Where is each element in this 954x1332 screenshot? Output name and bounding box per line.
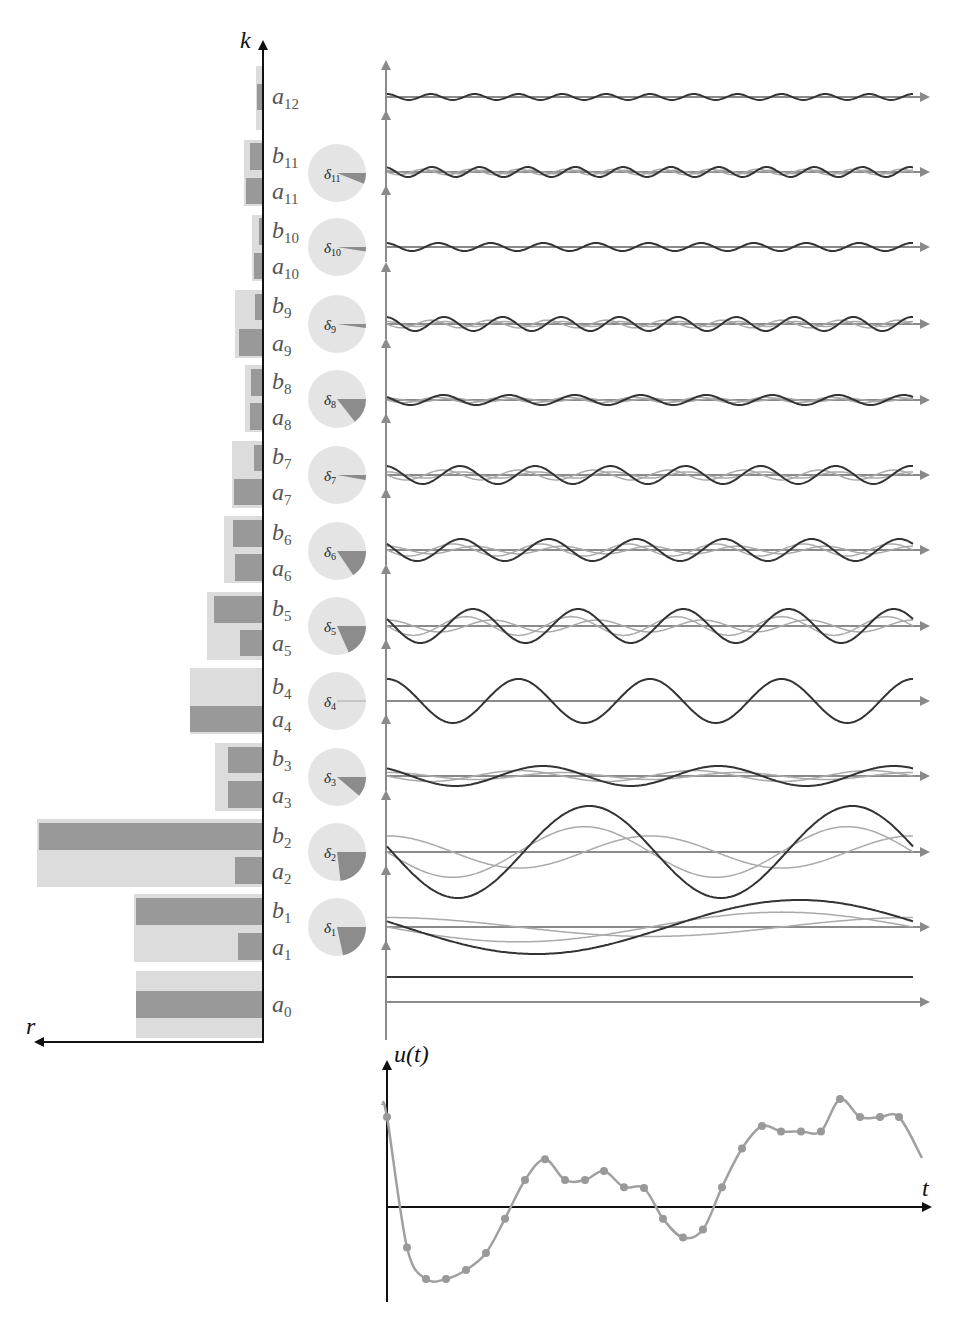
sample-dot <box>541 1155 549 1163</box>
coefficient-label-b3: b3 <box>272 745 292 774</box>
harmonic-row-k7 <box>386 415 928 490</box>
sample-dot <box>836 1095 844 1103</box>
coefficient-label-a10: a10 <box>272 253 299 282</box>
bar-group-k11 <box>244 140 262 206</box>
sample-dot <box>561 1176 569 1184</box>
b-coefficient-bar <box>214 596 262 623</box>
bar-group-k6 <box>224 516 262 583</box>
coefficient-label-a12: a12 <box>272 83 299 112</box>
bar-group-k10 <box>252 215 262 281</box>
coefficient-label-b11: b11 <box>272 142 298 171</box>
bar-group-k0 <box>136 971 262 1038</box>
sample-dot <box>442 1275 450 1283</box>
sample-dot <box>640 1184 648 1192</box>
sample-dot <box>679 1234 687 1242</box>
sample-dot <box>383 1113 391 1121</box>
sample-dot <box>895 1113 903 1121</box>
b-coefficient-bar <box>228 747 262 773</box>
phase-pie-delta9: δ9 <box>308 295 366 353</box>
a-coefficient-bar <box>228 781 262 808</box>
phase-pie-delta1: δ1 <box>308 898 366 956</box>
coefficient-bars <box>37 66 262 1038</box>
coefficient-label-a6: a6 <box>272 555 292 584</box>
a-coefficient-bar <box>190 706 262 732</box>
a-coefficient-bar <box>246 178 262 204</box>
b-coefficient-bar <box>254 445 262 471</box>
b-coefficient-bar <box>250 143 262 170</box>
harmonic-row-k9 <box>386 264 928 339</box>
sample-dot <box>403 1244 411 1252</box>
harmonic-row-k5 <box>386 566 928 643</box>
coefficient-label-a8: a8 <box>272 404 292 433</box>
bar-group-k12 <box>256 66 262 130</box>
bar-group-k2 <box>37 819 262 887</box>
sample-dot <box>718 1183 726 1191</box>
sample-dot <box>482 1249 490 1257</box>
a-coefficient-bar <box>235 857 262 884</box>
coefficient-label-a7: a7 <box>272 479 292 508</box>
coefficient-label-a1: a1 <box>272 934 292 963</box>
sample-dot <box>856 1113 864 1121</box>
a-coefficient-bar <box>238 933 262 960</box>
sample-dot <box>462 1266 470 1274</box>
bar-group-k9 <box>235 290 262 358</box>
coefficient-label-b9: b9 <box>272 292 292 321</box>
a-coefficient-bar <box>136 991 262 1018</box>
a-coefficient-bar <box>257 84 262 110</box>
coefficient-label-b5: b5 <box>272 595 292 624</box>
harmonic-row-k10 <box>386 187 928 262</box>
a-coefficient-bar <box>240 630 262 656</box>
sample-dot <box>422 1275 430 1283</box>
harmonic-row-k6 <box>386 490 928 565</box>
sample-dot <box>659 1215 667 1223</box>
coefficient-label-b4: b4 <box>272 673 292 702</box>
coefficient-label-b2: b2 <box>272 822 292 851</box>
coefficient-label-a0: a0 <box>272 991 292 1020</box>
sample-dot <box>758 1122 766 1130</box>
t-axis-label: t <box>922 1175 930 1201</box>
phase-pie-delta3: δ3 <box>308 748 366 806</box>
coefficient-label-a2: a2 <box>272 858 292 887</box>
coefficient-label-b1: b1 <box>272 897 292 926</box>
phase-pie-delta5: δ5 <box>308 597 366 655</box>
phase-pie-delta7: δ7 <box>308 446 366 504</box>
k-axis-label: k <box>240 27 251 53</box>
coefficient-label-b7: b7 <box>272 443 292 472</box>
phase-pie-delta10: δ10 <box>308 218 366 276</box>
a-coefficient-bar <box>239 329 262 356</box>
coefficient-label-a5: a5 <box>272 630 292 659</box>
sample-dot <box>581 1176 589 1184</box>
signal-plot: u(t) t <box>382 1041 930 1302</box>
coefficient-label-a3: a3 <box>272 782 292 811</box>
a-coefficient-bar <box>254 253 262 279</box>
harmonic-row-k8 <box>386 340 928 415</box>
sample-dot <box>876 1113 884 1121</box>
b-coefficient-bar <box>255 294 262 320</box>
phase-pies: δ1δ2δ3δ4δ5δ6δ7δ8δ9δ10δ11 <box>308 144 366 956</box>
harmonic-row-k4 <box>386 641 928 723</box>
coefficient-label-b10: b10 <box>272 217 299 246</box>
b-coefficient-bar <box>251 369 262 396</box>
bar-group-k1 <box>134 894 262 962</box>
b-coefficient-bar <box>233 520 262 547</box>
harmonic-row-k0 <box>386 942 928 1040</box>
harmonic-row-k2 <box>386 792 928 898</box>
phase-pie-delta11: δ11 <box>308 144 366 202</box>
phase-pie-delta4: δ4 <box>308 672 366 730</box>
bar-group-k3 <box>215 743 262 811</box>
sample-dot <box>817 1127 825 1135</box>
a-coefficient-bar <box>235 554 262 581</box>
coefficient-label-a4: a4 <box>272 706 292 735</box>
b-coefficient-bar <box>136 898 262 925</box>
bar-group-k5 <box>207 592 262 660</box>
harmonic-row-k3 <box>386 716 928 791</box>
coefficient-label-a9: a9 <box>272 330 292 359</box>
coefficient-label-b6: b6 <box>272 519 292 548</box>
harmonic-row-k1 <box>386 867 928 954</box>
signal-curve <box>382 1099 922 1282</box>
fourier-diagram: k r a12b11a11b10a10b9a9b8a8b7a7b6a6b5a5b… <box>0 0 954 1332</box>
b-coefficient-bar <box>39 823 262 850</box>
coefficient-label-a11: a11 <box>272 178 298 207</box>
coefficient-label-b8: b8 <box>272 368 292 397</box>
phase-pie-delta6: δ6 <box>308 522 366 580</box>
